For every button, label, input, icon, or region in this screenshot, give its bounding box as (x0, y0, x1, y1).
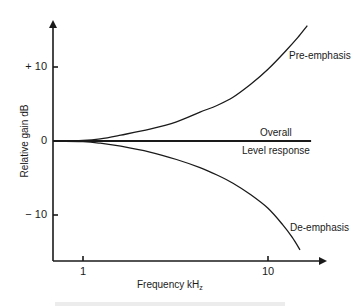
x-tick-label: 1 (80, 265, 86, 277)
x-axis-label: Frequency kHz (137, 279, 203, 291)
x-axis-label-sub: z (199, 284, 203, 291)
series-line-de-emphasis (53, 141, 300, 250)
label-de-emphasis: De-emphasis (290, 222, 349, 233)
caption-remnant (55, 302, 285, 306)
y-tick-label: − 10 (25, 208, 47, 220)
y-axis-label: Relative gain dB (19, 104, 30, 177)
label-overall: Overall (260, 127, 292, 138)
x-tick-label: 10 (262, 265, 274, 277)
label-pre-emphasis: Pre-emphasis (289, 50, 351, 61)
x-axis-label-main: Frequency kH (137, 279, 199, 290)
chart: Relative gain dB Frequency kHz + 100− 10… (0, 0, 364, 306)
x-ticks: 110 (80, 256, 274, 277)
y-tick-label: + 10 (25, 60, 47, 72)
label-level-response: Level response (242, 145, 310, 156)
y-tick-label: 0 (41, 134, 47, 146)
series-line-pre-emphasis (53, 26, 307, 141)
